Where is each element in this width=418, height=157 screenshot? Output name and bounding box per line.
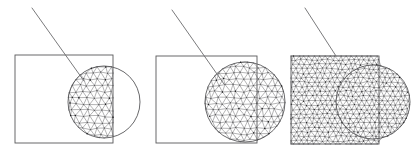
- mesh-figure-canvas: [0, 0, 418, 157]
- mesh-figure-root: [0, 0, 418, 157]
- figure-background: [0, 0, 418, 157]
